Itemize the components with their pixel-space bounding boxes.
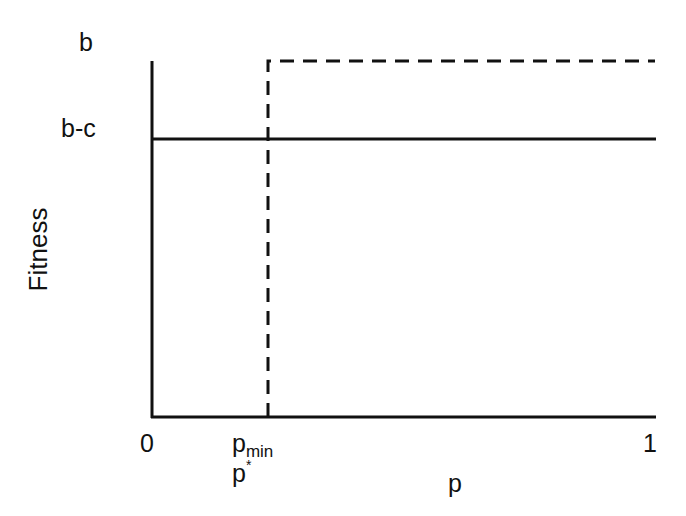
y-tick-b: b (79, 28, 93, 57)
y-axis-label: Fitness (23, 208, 54, 292)
pmin-base: p (232, 429, 246, 457)
x-tick-one: 1 (643, 429, 657, 458)
x-tick-pstar: p* (232, 457, 251, 488)
dashed-step-line (268, 61, 655, 417)
y-tick-b-minus-c: b-c (61, 114, 96, 143)
pstar-sup: * (246, 457, 251, 473)
pstar-base: p (232, 459, 246, 487)
x-tick-zero: 0 (140, 429, 154, 458)
x-axis-label: p (448, 469, 462, 498)
chart-canvas (0, 0, 686, 516)
